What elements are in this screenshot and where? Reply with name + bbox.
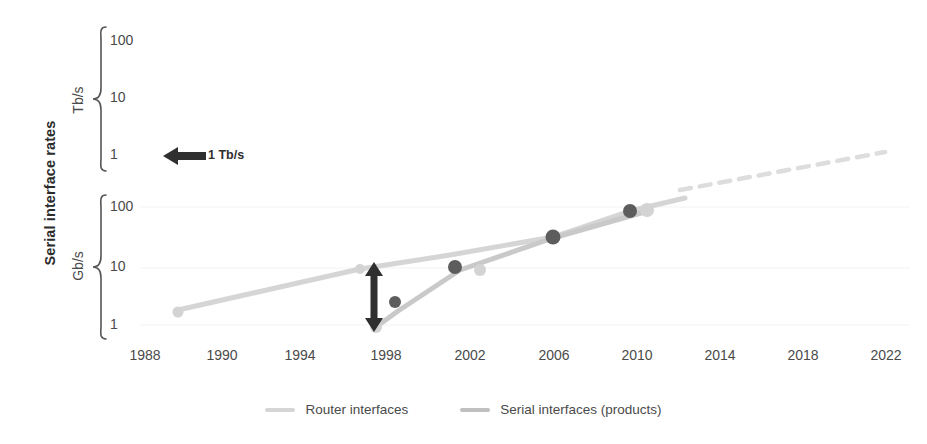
plot-area bbox=[140, 26, 910, 340]
xtick-2018: 2018 bbox=[768, 347, 838, 363]
xtick-2022: 2022 bbox=[851, 347, 921, 363]
legend-item-router-interfaces: Router interfaces bbox=[265, 402, 408, 417]
ytick-gbps-10: 10 bbox=[110, 259, 144, 273]
series-line-router-interfaces bbox=[178, 198, 685, 310]
y-axis-unit-tbps: Tb/s bbox=[70, 70, 86, 130]
gridlines bbox=[140, 207, 910, 325]
xtick-1990: 1990 bbox=[187, 347, 257, 363]
chart-figure: Serial interface rates Tb/s Gb/s 100 10 … bbox=[0, 0, 927, 444]
xtick-2014: 2014 bbox=[685, 347, 755, 363]
xtick-2006: 2006 bbox=[519, 347, 589, 363]
ytick-gbps-100: 100 bbox=[110, 199, 144, 213]
xtick-2002: 2002 bbox=[435, 347, 505, 363]
brace-gbps bbox=[92, 194, 108, 340]
legend-label-router-interfaces: Router interfaces bbox=[305, 402, 408, 417]
xtick-1988: 1988 bbox=[110, 347, 180, 363]
xtick-1998: 1998 bbox=[351, 347, 421, 363]
legend-swatch-serial-interfaces bbox=[460, 408, 490, 412]
ytick-tbps-1: 1 bbox=[110, 147, 144, 161]
one-tbs-arrow-icon bbox=[163, 146, 207, 166]
y-axis-unit-gbps: Gb/s bbox=[70, 236, 86, 296]
ytick-tbps-10: 10 bbox=[110, 90, 144, 104]
series-line-serial-interfaces bbox=[376, 211, 648, 327]
xtick-2010: 2010 bbox=[602, 347, 672, 363]
gap-double-arrow-icon bbox=[363, 262, 385, 332]
ytick-gbps-1: 1 bbox=[110, 317, 144, 331]
chart-legend: Router interfaces Serial interfaces (pro… bbox=[0, 402, 927, 417]
xtick-1994: 1994 bbox=[265, 347, 335, 363]
legend-swatch-router-interfaces bbox=[265, 408, 295, 412]
ytick-tbps-100: 100 bbox=[110, 33, 144, 47]
one-tbs-label: 1 Tb/s bbox=[208, 148, 244, 162]
series-line-router-extrapolation bbox=[680, 152, 885, 190]
legend-item-serial-interfaces: Serial interfaces (products) bbox=[460, 402, 661, 417]
brace-tbps bbox=[92, 26, 108, 172]
legend-label-serial-interfaces: Serial interfaces (products) bbox=[500, 402, 661, 417]
y-axis-title: Serial interface rates bbox=[42, 83, 58, 303]
